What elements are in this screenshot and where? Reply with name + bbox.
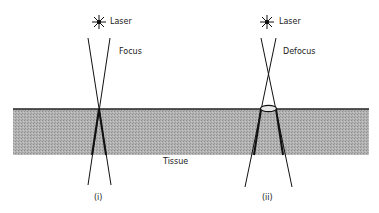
diagram-canvas [0,0,379,213]
focus-label: Focus [119,47,142,56]
defocus-label: Defocus [283,47,315,56]
caption-i: (i) [94,193,102,202]
caption-ii: (ii) [262,193,273,202]
laser-icon-i [92,15,106,29]
laser-label-i: Laser [110,17,132,26]
laser-label-ii: Laser [279,17,301,26]
laser-icon-ii [260,15,274,29]
tissue-label: Tissue [163,157,188,166]
defocus-spot [261,105,277,111]
tissue-layer [13,109,369,155]
